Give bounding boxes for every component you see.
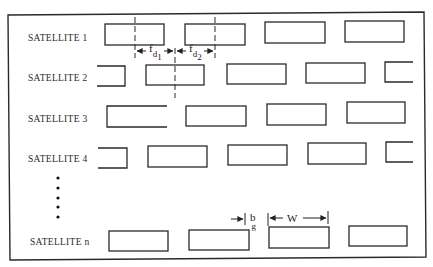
channel-block — [308, 143, 366, 164]
channel-block — [228, 145, 287, 165]
channel-block — [345, 21, 404, 42]
channel-block — [267, 104, 326, 125]
channel-block — [148, 146, 207, 167]
channel-block — [186, 106, 246, 126]
row-label-satellite-4: SATELLITE 4 — [28, 154, 88, 164]
w-label: W — [287, 212, 298, 224]
satellite-channel-diagram: SATELLITE 1 SATELLITE 2 SATELLITE 3 SATE… — [0, 0, 433, 267]
channel-block-partial — [98, 148, 127, 168]
channel-block-partial — [107, 106, 167, 127]
channel-block — [306, 63, 365, 83]
channel-block — [349, 226, 407, 246]
bg-label: bg — [250, 211, 257, 231]
row-label-satellite-n: SATELLITE n — [30, 237, 90, 247]
channel-block — [269, 227, 329, 248]
channel-block — [109, 231, 168, 251]
channel-block — [227, 64, 286, 84]
row-label-satellite-1: SATELLITE 1 — [28, 33, 88, 43]
channel-block-partial — [97, 66, 125, 86]
row-label-satellite-2: SATELLITE 2 — [28, 73, 88, 83]
channel-block — [347, 102, 405, 123]
row-label-satellite-3: SATELLITE 3 — [28, 114, 88, 124]
channel-block — [265, 22, 325, 43]
channel-block-partial — [385, 62, 413, 82]
diagram-frame — [8, 12, 426, 260]
channel-block — [189, 230, 249, 250]
ellipsis-dots — [56, 176, 59, 218]
channel-block-partial — [386, 142, 413, 162]
